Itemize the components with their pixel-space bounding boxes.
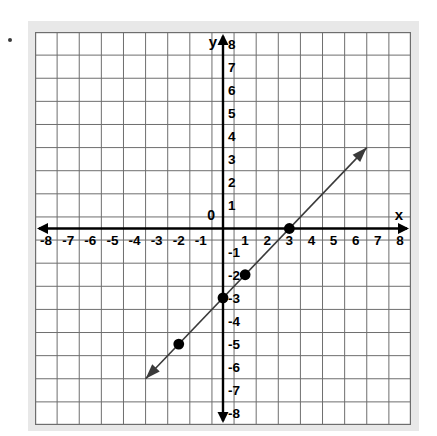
y-tick-label: 4	[228, 129, 236, 144]
y-tick-label: -2	[228, 268, 240, 283]
x-tick-label: 6	[352, 233, 360, 248]
origin-label: 0	[207, 207, 215, 223]
x-tick-label: 5	[330, 233, 338, 248]
x-tick-label: -3	[151, 233, 163, 248]
data-point	[173, 339, 184, 350]
bullet-marker-icon	[8, 38, 12, 42]
x-tick-label: 2	[263, 233, 271, 248]
y-tick-label: 3	[228, 152, 236, 167]
x-tick-label: 4	[308, 233, 316, 248]
y-tick-label: 1	[228, 198, 236, 213]
y-tick-label: 2	[228, 175, 236, 190]
y-tick-label: -1	[228, 245, 240, 260]
y-tick-label: 6	[228, 83, 236, 98]
coordinate-plane: -8-7-6-5-4-3-2-11234567887654321-1-2-3-4…	[35, 32, 411, 425]
x-tick-label: 8	[396, 233, 404, 248]
y-tick-label: -5	[228, 337, 240, 352]
y-axis-title: y	[209, 33, 218, 50]
x-tick-label: 1	[241, 233, 249, 248]
x-tick-label: -2	[173, 233, 185, 248]
x-tick-label: -5	[106, 233, 118, 248]
x-tick-label: 3	[286, 233, 294, 248]
y-tick-label: -6	[228, 360, 240, 375]
y-tick-label: -4	[228, 314, 240, 329]
data-point	[240, 269, 251, 280]
x-tick-label: -1	[195, 233, 207, 248]
y-tick-label: -8	[228, 406, 240, 421]
graph-page: -8-7-6-5-4-3-2-11234567887654321-1-2-3-4…	[0, 0, 437, 436]
x-tick-label: -6	[84, 233, 96, 248]
y-tick-label: 8	[228, 37, 236, 52]
y-tick-label: 5	[228, 106, 236, 121]
y-tick-label: -7	[228, 383, 240, 398]
x-tick-label: -4	[129, 233, 141, 248]
y-tick-label: 7	[228, 60, 236, 75]
coordinate-grid-svg: -8-7-6-5-4-3-2-11234567887654321-1-2-3-4…	[35, 32, 411, 425]
y-tick-label: -3	[228, 291, 240, 306]
x-tick-label: 7	[374, 233, 382, 248]
data-point	[284, 223, 295, 234]
x-tick-label: -7	[62, 233, 74, 248]
x-axis-title: x	[395, 206, 404, 223]
x-tick-label: -8	[40, 233, 52, 248]
data-point	[218, 292, 229, 303]
